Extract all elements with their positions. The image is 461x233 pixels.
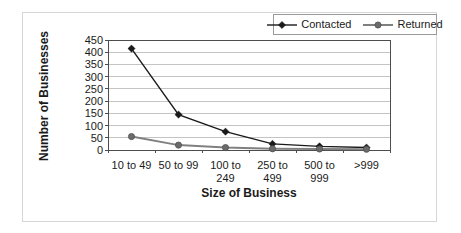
returned-data-point	[363, 146, 369, 152]
x-axis-title: Size of Business	[201, 186, 296, 200]
legend-item-returned: Returned	[363, 19, 442, 30]
chart-page: 05010015020025030035040045010 to 4950 to…	[0, 0, 461, 233]
returned-data-point	[316, 146, 322, 152]
contacted-data-point	[279, 21, 286, 28]
x-tick-label: 500 to999	[304, 159, 335, 184]
y-tick-label: 150	[85, 107, 103, 119]
x-tick-label: 50 to 99	[159, 159, 199, 171]
returned-data-point	[128, 133, 134, 139]
y-tick-label: 200	[85, 95, 103, 107]
y-tick-label: 100	[85, 120, 103, 132]
legend-label-contacted: Contacted	[301, 19, 351, 30]
plot-area-border	[108, 40, 390, 150]
contacted-data-point	[222, 128, 229, 135]
circle-marker-icon	[363, 20, 393, 30]
legend-label-returned: Returned	[397, 19, 442, 30]
x-tick-label: 250 to499	[257, 159, 288, 184]
returned-data-point	[269, 146, 275, 152]
returned-data-point	[222, 144, 228, 150]
y-tick-label: 250	[85, 83, 103, 95]
y-tick-label: 400	[85, 46, 103, 58]
chart-legend: ContactedReturned	[273, 14, 437, 35]
x-tick-label: 100 to249	[210, 159, 241, 184]
y-tick-label: 350	[85, 58, 103, 70]
y-axis-title: Number of Businesses	[37, 31, 51, 161]
y-tick-label: 0	[97, 144, 103, 156]
returned-data-point	[375, 21, 381, 27]
x-tick-label: >999	[354, 159, 379, 171]
y-tick-label: 450	[85, 34, 103, 46]
series-line-contacted	[132, 49, 367, 148]
y-tick-label: 300	[85, 71, 103, 83]
diamond-marker-icon	[267, 20, 297, 30]
returned-data-point	[175, 142, 181, 148]
x-tick-label: 10 to 49	[112, 159, 152, 171]
y-tick-label: 50	[91, 132, 103, 144]
legend-item-contacted: Contacted	[267, 19, 351, 30]
